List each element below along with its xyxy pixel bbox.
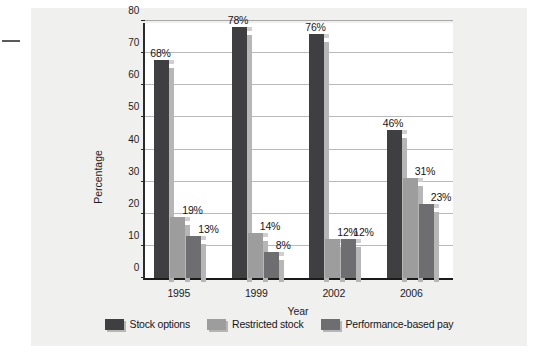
y-axis-tick-label: 10 [128,229,139,240]
bar-shadow [356,247,361,282]
y-axis-tick-mark [141,20,145,21]
y-axis-tick-mark [141,84,145,85]
bar-group: 76%12%12% [309,23,356,278]
bar-value-label: 12% [353,226,373,238]
legend-item[interactable]: Restricted stock [207,318,304,330]
y-axis-tick-mark [141,277,145,278]
legend-item[interactable]: Performance-based pay [321,318,454,330]
legend-label: Restricted stock [232,318,304,330]
bar-body [264,252,279,278]
y-axis-tick-label: 50 [128,101,139,112]
x-axis-tick-label: 1995 [167,287,190,299]
y-axis-tick-mark [141,149,145,150]
y-axis-tick-mark [141,245,145,246]
bar-value-label: 13% [198,223,218,235]
bar[interactable]: 13% [186,236,201,278]
bar-body [341,239,356,278]
plot-area: 01020304050607080 68%19%13%78%14%8%76%12… [143,23,453,280]
y-axis-tick-mark [141,52,145,53]
y-axis-tick-mark [141,116,145,117]
bar[interactable]: 68% [154,60,169,278]
bar-shadow [279,260,284,282]
y-axis-tick-label: 30 [128,165,139,176]
bar-shadow-top [169,60,174,64]
plot-wrapper: 01020304050607080 68%19%13%78%14%8%76%12… [143,23,453,280]
x-axis-title: Year [143,305,453,317]
bar-body [387,130,402,278]
bar-shadow-top [418,178,423,182]
bar-body [248,233,263,278]
bar-body [232,27,247,278]
legend-color-swatch [321,319,340,330]
chart-legend: Stock optionsRestricted stockPerformance… [31,318,527,330]
chart-figure-panel: Percentage 01020304050607080 68%19%13%78… [31,8,527,346]
bar[interactable]: 8% [264,252,279,278]
y-axis-tick-label: 60 [128,69,139,80]
x-axis-tick-label: 2002 [322,287,345,299]
x-axis-tick-label: 2006 [400,287,423,299]
y-axis-tick-label: 40 [128,133,139,144]
y-axis-tick-mark [141,181,145,182]
x-axis-tick-label: 1999 [245,287,268,299]
legend-swatch-body [321,319,340,330]
bar-group: 68%19%13% [154,23,201,278]
y-axis-tick-label: 0 [134,262,139,273]
bar-shadow [201,244,206,282]
bar-value-label: 19% [182,204,202,216]
bar-value-label: 8% [276,239,291,251]
bar-value-label: 68% [150,47,170,59]
legend-color-swatch [207,319,226,330]
bar-shadow-top [247,27,252,31]
bar[interactable]: 78% [232,27,247,278]
legend-label: Performance-based pay [346,318,454,330]
bar-shadow-top [279,252,284,256]
bar-shadow-top [185,217,190,221]
legend-item[interactable]: Stock options [105,318,190,330]
bar[interactable]: 23% [419,204,434,278]
legend-label: Stock options [130,318,190,330]
bar-shadow-top [356,239,361,243]
bar[interactable]: 12% [341,239,356,278]
bar-shadow [434,212,439,282]
bar-shadow-top [402,130,407,134]
gridline [145,20,453,21]
legend-color-swatch [105,319,124,330]
bar-shadow-top [201,236,206,240]
bar[interactable]: 76% [309,34,324,278]
bar-value-label: 14% [260,220,280,232]
y-axis-tick-label: 20 [128,197,139,208]
bar-body [309,34,324,278]
bar-shadow-top [324,34,329,38]
bar-body [419,204,434,278]
y-axis-title: Percentage [92,150,104,204]
y-axis-tick-label: 80 [128,5,139,16]
y-axis-tick-label: 70 [128,37,139,48]
bar-body [325,239,340,278]
bar-value-label: 76% [305,21,325,33]
bar[interactable]: 12% [325,239,340,278]
bar-body [403,178,418,278]
bar[interactable]: 31% [403,178,418,278]
bar-value-label: 31% [415,165,435,177]
bar-group: 78%14%8% [232,23,279,278]
bar-shadow-top [263,233,268,237]
bar[interactable]: 14% [248,233,263,278]
bar-value-label: 78% [228,14,248,26]
bar-group: 46%31%23% [387,23,434,278]
bar-body [186,236,201,278]
bar-body [154,60,169,278]
legend-swatch-body [207,319,226,330]
bar[interactable]: 19% [170,217,185,278]
bar-body [170,217,185,278]
bar-value-label: 23% [431,191,451,203]
y-axis-tick-mark [141,213,145,214]
legend-swatch-body [105,319,124,330]
bar-value-label: 46% [383,117,403,129]
bar-shadow-top [434,204,439,208]
page-edge-artifact [2,40,20,42]
bar[interactable]: 46% [387,130,402,278]
